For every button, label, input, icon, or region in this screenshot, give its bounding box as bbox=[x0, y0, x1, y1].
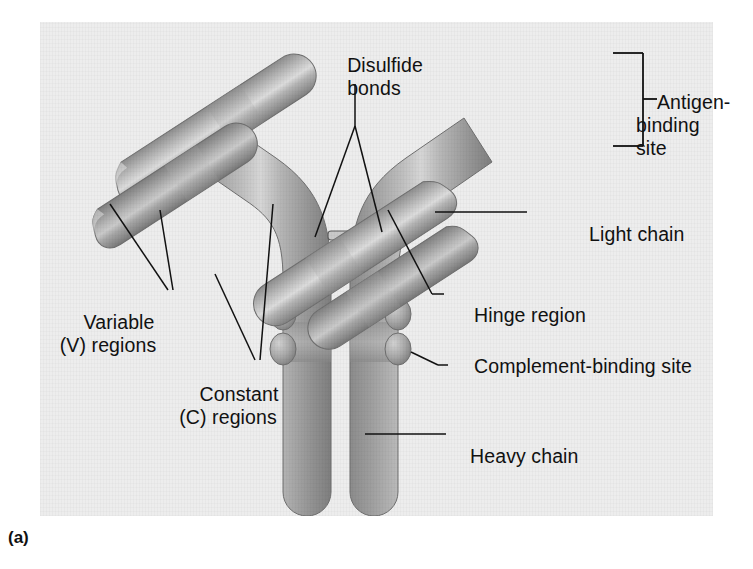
figure-caption: (a) bbox=[8, 528, 29, 548]
label-constant-regions: Constant (C) regions bbox=[150, 360, 306, 452]
antibody-figure: Disulfide bonds Antigen- binding site Li… bbox=[0, 0, 753, 569]
label-disulfide-bonds: Disulfide bonds bbox=[309, 31, 439, 123]
label-antigen-binding-site: Antigen- binding site bbox=[636, 68, 730, 183]
label-light-chain: Light chain bbox=[567, 200, 685, 269]
label-heavy-chain: Heavy chain bbox=[448, 422, 579, 491]
label-complement-binding-site: Complement-binding site bbox=[452, 332, 692, 401]
